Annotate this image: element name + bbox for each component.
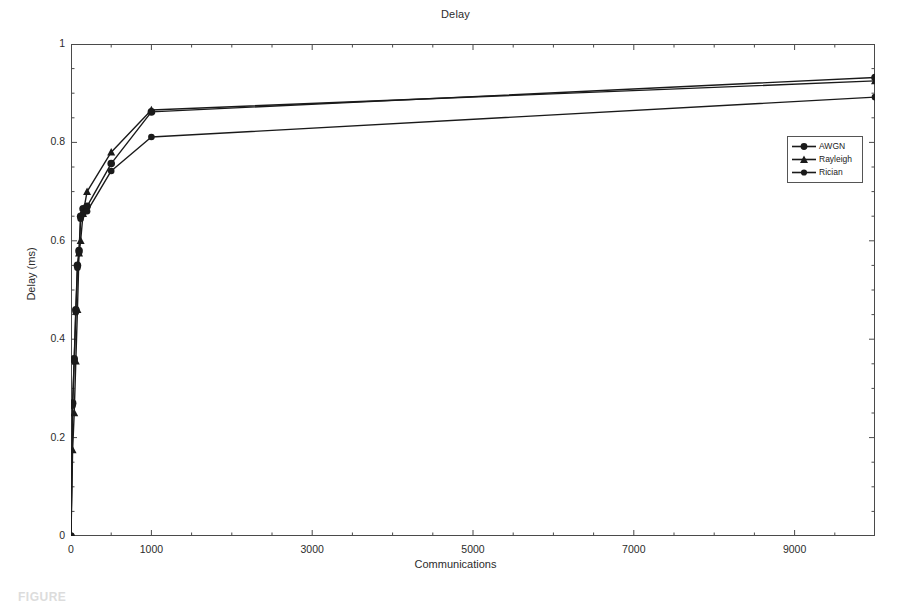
x-tick-label: 7000: [604, 544, 664, 554]
y-tick-label: 0.8: [25, 136, 65, 146]
figure-container: Delay 00.20.40.60.81 0100030005000700090…: [0, 0, 911, 604]
legend-label-rician: Rician: [817, 166, 843, 179]
chart-plot-area: Delay 00.20.40.60.81 0100030005000700090…: [0, 0, 911, 604]
legend-marker-triangle-icon: [791, 153, 817, 166]
y-tick-label: 0: [25, 530, 65, 540]
y-tick-label: 0.2: [25, 432, 65, 442]
x-tick-label: 1000: [121, 544, 181, 554]
legend-marker-circle-icon: [791, 140, 817, 153]
legend-item-awgn: AWGN: [791, 140, 859, 153]
series-awgn: [71, 74, 875, 536]
y-axis-label: Delay (ms): [25, 229, 37, 319]
legend-label-awgn: AWGN: [817, 140, 845, 153]
series-rician: [71, 94, 875, 536]
x-tick-label: 3000: [282, 544, 342, 554]
x-tick-label: 9000: [765, 544, 825, 554]
y-tick-label: 0.4: [25, 333, 65, 343]
legend-item-rician: Rician: [791, 166, 859, 179]
chart-canvas: [71, 44, 875, 536]
legend-marker-circle-small-icon: [791, 166, 817, 179]
legend-label-rayleigh: Rayleigh: [817, 153, 852, 166]
x-tick-label: 0: [41, 544, 101, 554]
x-axis-label: Communications: [0, 558, 911, 570]
y-tick-label: 1: [25, 38, 65, 48]
figure-caption: FIGURE: [18, 590, 66, 604]
series-rayleigh: [71, 77, 875, 536]
legend-item-rayleigh: Rayleigh: [791, 153, 859, 166]
x-tick-label: 5000: [443, 544, 503, 554]
data-series-layer: [71, 74, 875, 536]
axis-ticks: [71, 44, 875, 536]
chart-title: Delay: [0, 8, 911, 20]
chart-legend: AWGN Rayleigh Rician: [787, 136, 863, 183]
